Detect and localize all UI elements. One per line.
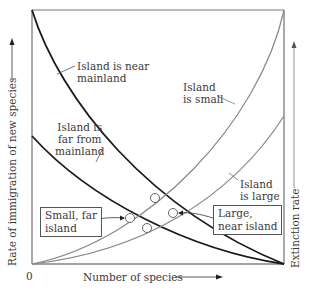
equilibrium-far-large (143, 224, 152, 233)
right-axis-arrowhead (292, 41, 297, 48)
far-label-line3: mainland (55, 145, 104, 157)
small-label-line2: is small (183, 93, 223, 105)
small-far-line1: Small, far (45, 209, 97, 222)
x-axis-label: Number of species (83, 271, 183, 283)
small-far-island-callout: Small, far island (40, 207, 102, 237)
equilibrium-near-large (169, 209, 178, 218)
arrowhead-large-near (178, 211, 183, 216)
equilibrium-far-small (126, 214, 135, 223)
diagram-canvas (0, 0, 309, 301)
leader-near (57, 66, 75, 74)
far-mainland-label: Island is far from mainland (55, 121, 104, 157)
x-axis-arrowhead (216, 275, 223, 280)
far-label-line1: Island is (55, 121, 104, 133)
x-origin-label: 0 (26, 270, 33, 282)
large-near-island-callout: Large, near island (213, 205, 282, 235)
far-label-line2: far from (55, 133, 104, 145)
large-label-line1: Island (240, 178, 280, 190)
right-y-axis-label: Extinction rate (289, 188, 301, 268)
equilibrium-near-small (151, 194, 160, 203)
left-y-axis-label: Rate of immigration of new species (6, 78, 18, 266)
large-island-label: Island is large (240, 178, 280, 202)
small-label-line1: Island (183, 81, 223, 93)
left-axis-arrowhead (10, 38, 15, 45)
arrowhead-small-far (120, 216, 125, 221)
small-island-label: Island is small (183, 81, 223, 105)
near-label-line1: Island is near (77, 60, 149, 72)
island-biogeography-diagram: Island is near mainland Island is small … (0, 0, 309, 301)
large-label-line2: is large (240, 190, 280, 202)
near-label-line2: mainland (77, 72, 149, 84)
small-far-line2: island (45, 222, 97, 235)
large-near-line1: Large, (218, 207, 277, 220)
near-mainland-label: Island is near mainland (77, 60, 149, 84)
large-near-line2: near island (218, 220, 277, 233)
